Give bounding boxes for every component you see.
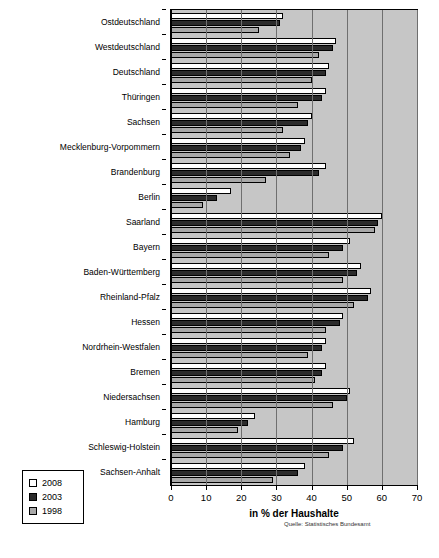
legend-swatch-icon — [29, 507, 37, 515]
gridline-30 — [276, 10, 277, 485]
bar-group — [171, 260, 417, 285]
category-tick — [162, 384, 166, 385]
bar-group — [171, 10, 417, 35]
bar-2003 — [171, 445, 343, 451]
bar-2008 — [171, 463, 305, 469]
category-label: Saarland — [126, 217, 160, 227]
bar-2008 — [171, 138, 305, 144]
legend-label: 2003 — [42, 492, 62, 502]
x-tick — [276, 486, 277, 490]
legend-item[interactable]: 1998 — [29, 504, 77, 518]
bar-2008 — [171, 88, 326, 94]
x-tick — [171, 486, 172, 490]
plot-area — [170, 9, 418, 486]
bar-group — [171, 210, 417, 235]
x-tick — [347, 486, 348, 490]
category-label: Deutschland — [113, 67, 160, 77]
category-tick — [162, 209, 166, 210]
bar-2003 — [171, 295, 368, 301]
bar-1998 — [171, 277, 343, 283]
bar-1998 — [171, 102, 298, 108]
category-tick — [162, 109, 166, 110]
category-tick — [162, 34, 166, 35]
x-tick-label: 60 — [377, 492, 388, 503]
bar-2008 — [171, 363, 326, 369]
gridline-60 — [382, 10, 383, 485]
bar-chart: OstdeutschlandWestdeutschlandDeutschland… — [0, 0, 439, 558]
gridline-20 — [241, 10, 242, 485]
category-label: Sachsen-Anhalt — [100, 467, 160, 477]
category-tick — [162, 359, 166, 360]
bar-group — [171, 335, 417, 360]
bar-2003 — [171, 195, 217, 201]
legend-item[interactable]: 2008 — [29, 476, 77, 490]
bar-group — [171, 385, 417, 410]
bar-group — [171, 60, 417, 85]
bar-2008 — [171, 238, 350, 244]
bar-2008 — [171, 263, 361, 269]
category-tick — [162, 134, 166, 135]
bar-2003 — [171, 320, 340, 326]
bar-1998 — [171, 352, 308, 358]
bar-1998 — [171, 127, 283, 133]
legend-swatch-icon — [29, 479, 37, 487]
category-tick — [162, 459, 166, 460]
legend-item[interactable]: 2003 — [29, 490, 77, 504]
bar-group — [171, 435, 417, 460]
bar-2003 — [171, 245, 343, 251]
bar-1998 — [171, 202, 203, 208]
legend-label: 1998 — [42, 506, 62, 516]
x-tick-label: 0 — [168, 492, 173, 503]
bar-group — [171, 310, 417, 335]
category-label: Hamburg — [125, 417, 160, 427]
x-tick — [382, 486, 383, 490]
bar-1998 — [171, 327, 326, 333]
bar-2003 — [171, 20, 280, 26]
gridline-50 — [347, 10, 348, 485]
bar-group — [171, 410, 417, 435]
bar-2003 — [171, 145, 301, 151]
bar-group — [171, 110, 417, 135]
category-label: Ostdeutschland — [101, 17, 160, 27]
bar-2008 — [171, 288, 371, 294]
bar-1998 — [171, 402, 333, 408]
bar-2003 — [171, 270, 357, 276]
bar-1998 — [171, 377, 315, 383]
category-tick — [162, 334, 166, 335]
category-label: Baden-Württemberg — [83, 267, 160, 277]
category-label: Hessen — [131, 317, 160, 327]
x-tick-label: 70 — [412, 492, 423, 503]
gridline-40 — [312, 10, 313, 485]
x-tick — [206, 486, 207, 490]
category-tick — [162, 309, 166, 310]
bar-group — [171, 135, 417, 160]
value-axis: 010203040506070 — [170, 486, 418, 487]
category-label: Mecklenburg-Vorpommern — [60, 142, 160, 152]
bar-2003 — [171, 120, 308, 126]
bar-2003 — [171, 45, 333, 51]
bar-2008 — [171, 313, 343, 319]
bar-group — [171, 185, 417, 210]
bar-group — [171, 35, 417, 60]
category-label: Berlin — [138, 192, 160, 202]
legend-label: 2008 — [42, 478, 62, 488]
bar-1998 — [171, 52, 319, 58]
category-tick — [162, 259, 166, 260]
bar-2003 — [171, 95, 322, 101]
bar-2003 — [171, 70, 326, 76]
category-tick — [162, 434, 166, 435]
bar-rows — [171, 10, 417, 485]
x-tick — [417, 486, 418, 490]
bar-group — [171, 460, 417, 485]
bar-1998 — [171, 302, 354, 308]
bar-2003 — [171, 370, 322, 376]
category-label: Sachsen — [127, 117, 160, 127]
x-tick — [312, 486, 313, 490]
bar-2003 — [171, 345, 322, 351]
x-tick-label: 10 — [201, 492, 212, 503]
bar-2003 — [171, 470, 298, 476]
bar-1998 — [171, 152, 290, 158]
bar-1998 — [171, 452, 329, 458]
bar-1998 — [171, 177, 266, 183]
source-note: Quelle: Statistisches Bundesamt — [284, 521, 370, 527]
